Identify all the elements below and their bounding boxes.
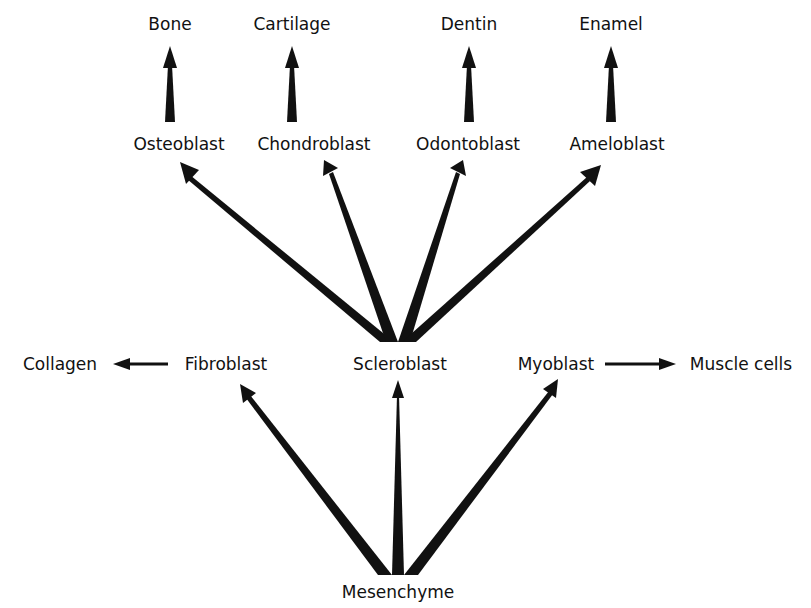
node-muscle-cells: Muscle cells (690, 354, 792, 374)
node-osteoblast: Osteoblast (133, 134, 224, 154)
node-bone: Bone (148, 14, 191, 34)
node-cartilage: Cartilage (253, 14, 330, 34)
arrow-odontoblast-to-dentin (462, 46, 476, 122)
node-enamel: Enamel (579, 14, 643, 34)
arrow-fibroblast-to-collagen (113, 358, 168, 370)
node-mesenchyme: Mesenchyme (342, 582, 454, 602)
arrows-layer (0, 0, 811, 608)
arrow-mesenchyme-to-scleroblast (392, 380, 404, 575)
cell-lineage-diagram: Bone Cartilage Dentin Enamel Osteoblast … (0, 0, 811, 608)
arrow-scleroblast-to-odontoblast (398, 160, 466, 342)
node-scleroblast: Scleroblast (353, 354, 447, 374)
node-odontoblast: Odontoblast (416, 134, 520, 154)
node-dentin: Dentin (441, 14, 498, 34)
arrow-osteoblast-to-bone (163, 46, 177, 122)
node-collagen: Collagen (23, 354, 97, 374)
arrow-chondroblast-to-cartilage (285, 46, 299, 122)
node-ameloblast: Ameloblast (569, 134, 664, 154)
node-fibroblast: Fibroblast (185, 354, 268, 374)
arrow-ameloblast-to-enamel (604, 46, 618, 122)
arrow-myoblast-to-muscle-cells (605, 358, 676, 370)
arrow-mesenchyme-to-fibroblast (240, 384, 392, 575)
arrow-mesenchyme-to-myoblast (404, 379, 558, 575)
node-chondroblast: Chondroblast (257, 134, 370, 154)
node-myoblast: Myoblast (518, 354, 595, 374)
